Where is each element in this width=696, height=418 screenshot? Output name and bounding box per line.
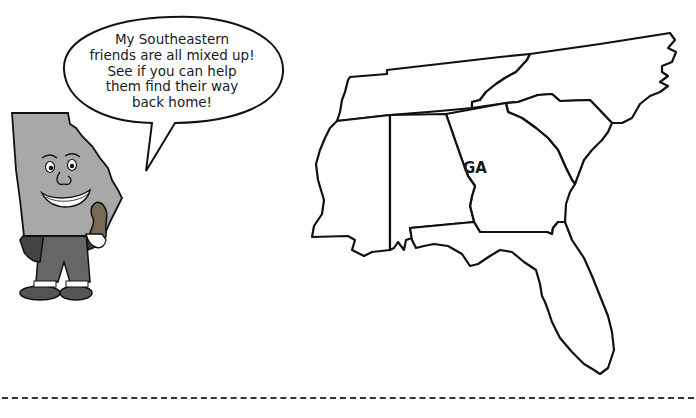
georgia-mascot — [12, 113, 122, 300]
speech-line: them find their way — [74, 79, 270, 95]
state-mississippi[interactable] — [312, 115, 390, 256]
speech-line: My Southeastern — [74, 32, 270, 48]
speech-line: See if you can help — [74, 64, 270, 80]
speech-line: friends are all mixed up! — [74, 48, 270, 64]
state-label-ga: GA — [463, 159, 487, 177]
dashed-cut-line — [2, 397, 694, 399]
state-florida[interactable] — [410, 222, 614, 374]
speech-bubble-text: My Southeastern friends are all mixed up… — [74, 32, 270, 111]
southeast-map: GA — [312, 33, 676, 374]
right-shoe — [60, 286, 92, 300]
left-shoe — [20, 286, 60, 300]
speech-line: back home! — [74, 95, 270, 111]
